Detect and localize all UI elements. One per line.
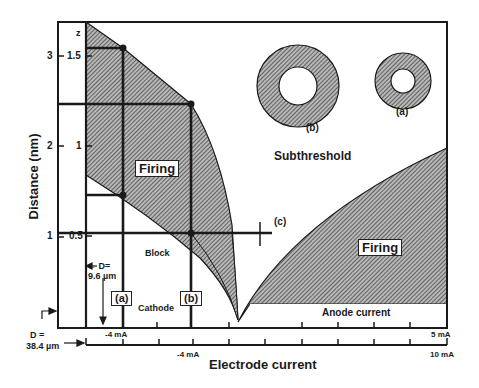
cathode-label: Cathode	[138, 304, 174, 313]
y-tick-outer-2: 2	[47, 141, 53, 151]
firing-label-right: Firing	[358, 239, 402, 256]
x-upper-tick-left: -4 mA	[105, 331, 127, 339]
marker-c-label: (c)	[274, 217, 286, 227]
y-tick-inner-0.5: 0.5	[69, 231, 83, 241]
d-large-label-1: D =	[30, 331, 44, 340]
d-small-label-1: ← D=	[87, 262, 110, 271]
block-label: Block	[145, 249, 170, 258]
y-tick-outer-3: 3	[47, 51, 53, 61]
x-upper-tick-right: 5 mA	[431, 331, 451, 339]
subthreshold-label: Subthreshold	[274, 150, 351, 162]
y-tick-inner-z: z	[76, 29, 81, 38]
y-tick-inner-1.5: 1.5	[67, 51, 81, 61]
d-small-label-2: 9.6 µm	[88, 272, 116, 281]
firing-region-right	[238, 148, 447, 322]
firing-label-left: Firing	[135, 160, 179, 177]
y-axis-label: Distance (nm)	[27, 132, 40, 222]
x-lower-tick-right: 10 mA	[430, 351, 454, 359]
ring-b	[257, 45, 339, 127]
y-tick-inner-1: 1	[76, 141, 82, 151]
d-large-label-2: 38.4 µm	[26, 342, 59, 351]
ring-a	[375, 53, 431, 109]
marker-b-box: (b)	[180, 291, 202, 306]
marker-a-box: (a)	[111, 291, 132, 306]
ring-b-label: (b)	[306, 123, 319, 133]
ring-a-label: (a)	[396, 107, 408, 117]
anode-current-label: Anode current	[322, 308, 390, 318]
y-tick-outer-1: 1	[47, 231, 53, 241]
x-axis-label: Electrode current	[209, 358, 317, 371]
x-lower-tick-left: -4 mA	[177, 351, 199, 359]
